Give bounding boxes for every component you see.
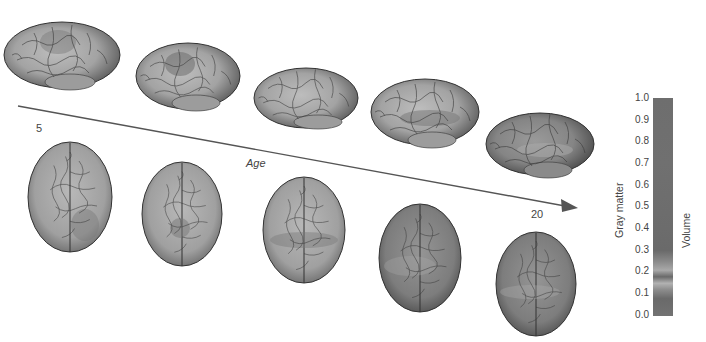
colorbar-tick: 1.0 <box>627 92 649 103</box>
colorbar-tick: 0.5 <box>627 200 649 211</box>
colorbar-tick: 0.4 <box>627 222 649 233</box>
colorbar-tick: 0.1 <box>627 287 649 298</box>
colorbar-tick: 0.2 <box>627 265 649 276</box>
colorbar-tick: 0.0 <box>627 309 649 320</box>
top-brain-5 <box>496 232 576 336</box>
colorbar-tick: 0.6 <box>627 179 649 190</box>
lateral-brain-4 <box>371 79 479 148</box>
age-start-label: 5 <box>36 122 42 134</box>
top-brain-2 <box>142 162 222 266</box>
age-axis-label: Age <box>246 157 266 169</box>
colorbar-tick: 0.9 <box>627 114 649 125</box>
colorbar-title: Gray matter <box>613 183 625 238</box>
age-end-label: 20 <box>531 208 543 220</box>
top-brain-1 <box>28 142 112 252</box>
brain-development-figure: 5 Age 20 1.0 0.9 0.8 0.7 0.6 0.5 0.4 0.3… <box>0 0 706 342</box>
colorbar-tick: 0.7 <box>627 157 649 168</box>
lateral-brain-2 <box>136 43 240 111</box>
colorbar-tick: 0.8 <box>627 135 649 146</box>
lateral-brain-5 <box>486 113 594 178</box>
brain-illustrations <box>0 0 706 342</box>
lateral-brain-1 <box>4 22 120 90</box>
colorbar-tick: 0.3 <box>627 244 649 255</box>
top-brain-4 <box>379 204 461 312</box>
colorbar-subtitle: Volume <box>680 213 692 248</box>
gray-matter-colorbar <box>653 98 673 316</box>
lateral-brain-3 <box>254 68 358 129</box>
top-brain-3 <box>263 177 345 283</box>
arrowhead-icon <box>561 199 578 212</box>
